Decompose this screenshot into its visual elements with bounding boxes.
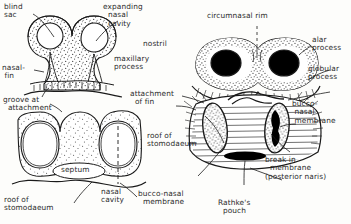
label-bucco-nasal-membrane-center: bucco-nasal membrane [138,190,184,207]
label-nasal-cavity: nasal cavity [101,188,124,205]
label-maxillary-process: maxillary process [114,55,149,72]
left-nostril [211,50,241,76]
right-nostril [269,50,299,76]
label-rathkes-pouch: Rathke's pouch [218,199,250,216]
label-circumnasal-rim: circumnasal rim [207,12,268,20]
roof-of-stomodaeum-lower-left [12,180,146,187]
label-roof-of-stomodaeum-left: roof of stomodaeum [4,196,54,213]
label-roof-of-stomodaeum-right: roof of stomodaeum [147,132,197,149]
label-bucco-nasal-membrane-right: bucco- nasal membrane [292,100,336,125]
label-blind-sac: blind sac [4,3,23,20]
label-globular-process: globular process [308,65,339,82]
left-nasal-cavity-lumen [21,121,59,168]
figure-canvas: blind sac expanding nasal cavity nasal- … [0,0,351,224]
rathkes-pouch [224,151,266,160]
label-nasal-fin: nasal- fin [2,64,25,81]
panel-lower-left [12,104,146,203]
label-alar-process: alar process [312,36,341,53]
label-expanding-nasal-cavity: expanding nasal cavity [103,3,143,28]
label-septum: septum [61,166,89,174]
label-nostril: nostril [143,40,167,48]
label-break-in-membrane: break in membrane (posterior naris) [265,156,326,181]
label-attachment-of-fin: attachment of fin [130,90,174,107]
blind-sac-lumen [37,23,63,49]
label-groove-at-attachment: groove at attachment [3,96,52,113]
